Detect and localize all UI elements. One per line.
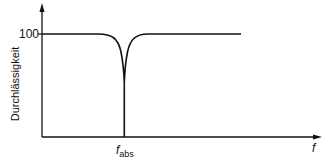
y-axis-arrow-icon	[40, 3, 45, 12]
chart-canvas	[0, 0, 326, 160]
y-axis-label: Durchlässigkeit	[9, 39, 21, 129]
transmission-curve	[42, 34, 241, 137]
x-axis-label: f	[312, 142, 315, 154]
x-axis-arrow-icon	[313, 135, 322, 140]
x-mark-sub: abs	[119, 149, 134, 159]
y-tick-label: 100	[19, 28, 39, 40]
x-mark-label: fabs	[116, 144, 134, 159]
